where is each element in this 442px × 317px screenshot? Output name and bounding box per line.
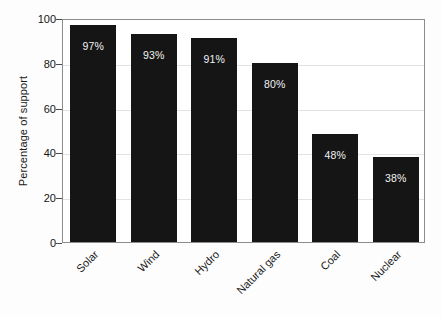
y-axis-tick-label: 100 bbox=[30, 13, 56, 25]
bar-value-label: 48% bbox=[312, 149, 358, 161]
y-axis-tick-label: 0 bbox=[30, 237, 56, 249]
x-axis-tick-label: Natural gas bbox=[168, 248, 283, 317]
bar-chart-figure: Percentage of support 020406080100 97%93… bbox=[0, 0, 442, 317]
bar[interactable]: 97% bbox=[70, 25, 116, 242]
bar-value-label: 38% bbox=[373, 172, 419, 184]
bar[interactable]: 38% bbox=[373, 157, 419, 242]
bar[interactable]: 48% bbox=[312, 134, 358, 242]
x-axis-tick-label: Hydro bbox=[107, 248, 222, 317]
x-axis-tick-label: Wind bbox=[47, 248, 162, 317]
plot-area: 97%93%91%80%48%38% bbox=[62, 19, 425, 243]
bar-value-label: 93% bbox=[131, 49, 177, 61]
y-axis-tick-label: 80 bbox=[30, 58, 56, 70]
gridline bbox=[63, 199, 424, 200]
gridline bbox=[63, 65, 424, 66]
y-axis-tick-mark bbox=[56, 243, 62, 244]
bar-value-label: 91% bbox=[191, 53, 237, 65]
bar[interactable]: 91% bbox=[191, 38, 237, 242]
gridline bbox=[63, 110, 424, 111]
y-axis-tick-label: 40 bbox=[30, 147, 56, 159]
bar-value-label: 80% bbox=[252, 78, 298, 90]
bar[interactable]: 93% bbox=[131, 34, 177, 242]
bar[interactable]: 80% bbox=[252, 63, 298, 242]
x-axis-tick-label: Coal bbox=[228, 248, 343, 317]
y-axis-tick-label: 20 bbox=[30, 192, 56, 204]
x-axis-tick-label: Nuclear bbox=[289, 248, 404, 317]
gridline bbox=[63, 154, 424, 155]
y-axis-tick-label: 60 bbox=[30, 103, 56, 115]
y-axis-tick-labels: 020406080100 bbox=[30, 0, 56, 317]
bar-value-label: 97% bbox=[70, 40, 116, 52]
